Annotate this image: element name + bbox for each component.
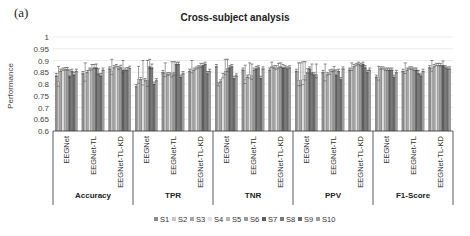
bar bbox=[122, 70, 124, 131]
bar bbox=[282, 68, 284, 131]
bar bbox=[84, 77, 86, 131]
group-label-eegnet-tl: EEGNet-TL bbox=[409, 136, 418, 175]
bar bbox=[220, 82, 222, 131]
legend-label: S2 bbox=[178, 215, 187, 224]
bar bbox=[222, 77, 224, 131]
bar bbox=[64, 69, 66, 131]
bar bbox=[389, 70, 391, 131]
legend-item: S2 bbox=[172, 215, 187, 224]
bar bbox=[173, 72, 175, 131]
group-label-eegnet-tl-kd: EEGNet-TL-KD bbox=[356, 135, 365, 187]
bar bbox=[215, 66, 217, 131]
bar bbox=[446, 69, 448, 131]
bar bbox=[182, 73, 184, 131]
legend-item: S4 bbox=[208, 215, 223, 224]
bar bbox=[246, 77, 248, 131]
bar bbox=[93, 68, 95, 131]
y-tick-label: 0.6 bbox=[38, 127, 50, 136]
bar bbox=[449, 69, 451, 131]
bar bbox=[95, 68, 97, 131]
bar bbox=[393, 77, 395, 131]
bar bbox=[384, 70, 386, 131]
bar bbox=[249, 75, 251, 131]
bar bbox=[202, 65, 204, 131]
group-label-eegnet-tl: EEGNet-TL bbox=[329, 136, 338, 175]
legend-item: S3 bbox=[190, 215, 205, 224]
bar bbox=[364, 68, 366, 131]
bar bbox=[333, 70, 335, 131]
bar bbox=[300, 80, 302, 131]
bar bbox=[311, 72, 313, 131]
metric-label: F1-Score bbox=[396, 191, 431, 200]
bar bbox=[111, 71, 113, 131]
bar bbox=[417, 73, 419, 131]
bar bbox=[309, 69, 311, 131]
legend-label: S5 bbox=[232, 215, 241, 224]
legend-label: S8 bbox=[286, 215, 295, 224]
bar bbox=[302, 79, 304, 131]
bar bbox=[289, 68, 291, 131]
bar bbox=[109, 69, 111, 131]
legend-label: S10 bbox=[322, 215, 335, 224]
bar bbox=[413, 70, 415, 131]
bar bbox=[253, 70, 255, 131]
bar bbox=[200, 66, 202, 131]
y-tick-label: 1 bbox=[45, 33, 50, 42]
bar bbox=[175, 64, 177, 131]
bar bbox=[197, 68, 199, 131]
bar bbox=[326, 75, 328, 131]
bar bbox=[151, 68, 153, 131]
bar bbox=[286, 69, 288, 131]
group-label-eegnet-tl: EEGNet-TL bbox=[169, 136, 178, 175]
legend-item: S10 bbox=[316, 215, 335, 224]
bar bbox=[271, 66, 273, 131]
legend-swatch bbox=[262, 217, 266, 221]
bar bbox=[329, 73, 331, 131]
bar bbox=[224, 71, 226, 131]
bar bbox=[415, 70, 417, 131]
legend: S1S2S3S4S5S6S7S8S9S10 bbox=[154, 215, 335, 224]
y-tick-label: 0.65 bbox=[33, 115, 49, 124]
bar bbox=[380, 69, 382, 131]
bar bbox=[102, 70, 104, 131]
bar bbox=[437, 65, 439, 131]
bar bbox=[395, 72, 397, 131]
bar bbox=[280, 66, 282, 131]
bar bbox=[335, 75, 337, 131]
y-tick-label: 0.7 bbox=[38, 104, 50, 113]
bar bbox=[229, 68, 231, 131]
bar bbox=[166, 75, 168, 131]
bar bbox=[377, 77, 379, 131]
group-label-eegnet: EEGNet bbox=[222, 135, 231, 163]
bar bbox=[140, 79, 142, 131]
bar bbox=[57, 82, 59, 131]
bar bbox=[75, 71, 77, 131]
bar bbox=[369, 70, 371, 131]
legend-item: S1 bbox=[154, 215, 169, 224]
bar bbox=[362, 64, 364, 131]
y-tick-label: 0.75 bbox=[33, 92, 49, 101]
bar bbox=[357, 64, 359, 131]
bar bbox=[153, 84, 155, 131]
bar bbox=[255, 69, 257, 131]
bar bbox=[135, 86, 137, 131]
group-label-eegnet: EEGNet bbox=[302, 135, 311, 163]
bar bbox=[340, 79, 342, 131]
bar bbox=[66, 69, 68, 131]
group-label-eegnet-tl-kd: EEGNet-TL-KD bbox=[116, 135, 125, 187]
bar bbox=[60, 71, 62, 131]
bar bbox=[82, 73, 84, 131]
group-label-eegnet-tl-kd: EEGNet-TL-KD bbox=[276, 135, 285, 187]
bar bbox=[171, 73, 173, 131]
bar bbox=[351, 69, 353, 131]
bar bbox=[431, 69, 433, 131]
legend-swatch bbox=[172, 217, 176, 221]
bar bbox=[233, 78, 235, 131]
bar bbox=[169, 75, 171, 131]
legend-item: S8 bbox=[280, 215, 295, 224]
bar bbox=[444, 68, 446, 131]
legend-swatch bbox=[280, 217, 284, 221]
bar bbox=[117, 69, 119, 131]
bar bbox=[406, 70, 408, 131]
group-label-eegnet: EEGNet bbox=[142, 135, 151, 163]
